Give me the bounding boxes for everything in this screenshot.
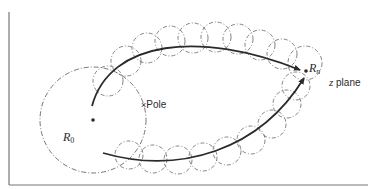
start-point-dot — [91, 118, 95, 122]
lower-circle-chain — [115, 72, 310, 174]
analytic-continuation-diagram — [0, 0, 376, 189]
continuation-circle — [155, 26, 185, 56]
label-r0-sub: 0 — [70, 136, 74, 145]
continuation-circle — [258, 110, 286, 138]
continuation-circle — [132, 33, 162, 63]
end-point-dot — [304, 69, 308, 73]
plane-text: plane — [333, 77, 360, 88]
label-rn-sub: n — [316, 67, 320, 76]
continuation-circle — [139, 145, 167, 173]
label-rn: Rn — [309, 62, 320, 76]
label-r0: R0 — [63, 131, 74, 145]
z-plane-label: z plane — [329, 77, 361, 88]
continuation-circle — [178, 23, 208, 53]
continuation-circle — [273, 90, 301, 118]
pole-label: ×Pole — [141, 100, 166, 110]
upper-circle-chain — [93, 22, 322, 96]
continuation-circle — [115, 141, 143, 169]
pole-text: Pole — [146, 99, 166, 110]
continuation-circle — [282, 72, 310, 100]
lower-continuation-path — [103, 78, 304, 161]
